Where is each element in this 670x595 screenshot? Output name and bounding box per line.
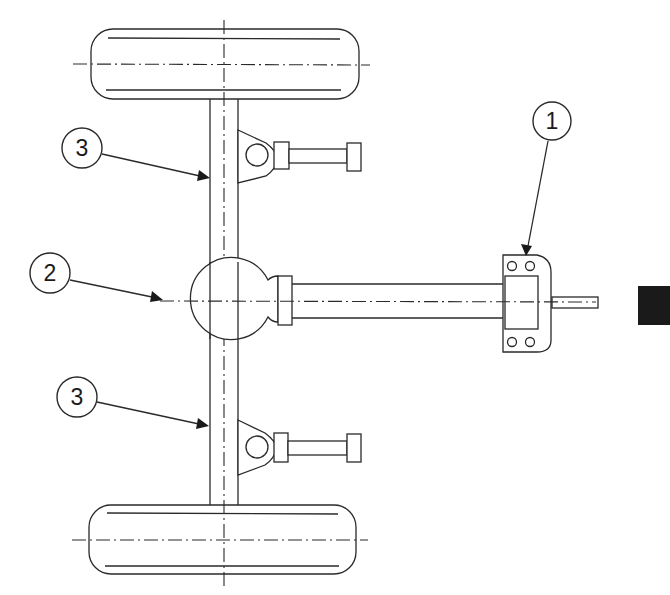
callout-1: 1	[521, 102, 571, 256]
axle-assembly-diagram: 1 2 3 3	[0, 0, 670, 595]
callout-3-lower: 3	[57, 377, 209, 429]
mounting-bracket	[503, 255, 551, 352]
callout-2-label: 2	[44, 260, 57, 286]
callout-3-upper: 3	[62, 128, 210, 181]
lower-suspension-link	[238, 420, 361, 475]
callout-3-lower-label: 3	[71, 384, 84, 410]
front-wheel	[73, 29, 370, 99]
callout-1-label: 1	[546, 108, 559, 134]
differential-housing	[190, 258, 278, 340]
callout-3-upper-label: 3	[76, 135, 89, 161]
upper-suspension-link	[238, 130, 361, 183]
rear-wheel	[72, 505, 368, 574]
callout-2: 2	[30, 253, 163, 302]
page-tab-marker	[638, 286, 670, 325]
